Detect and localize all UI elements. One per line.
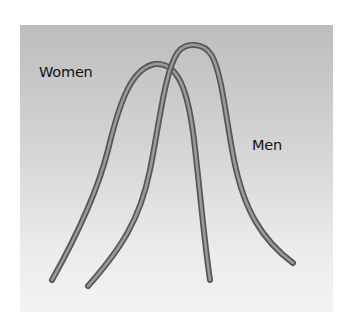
women-label: Women bbox=[39, 64, 93, 80]
women-curve bbox=[52, 64, 210, 280]
distribution-curves bbox=[0, 0, 345, 322]
men-label: Men bbox=[252, 137, 282, 153]
men-curve bbox=[88, 45, 293, 286]
